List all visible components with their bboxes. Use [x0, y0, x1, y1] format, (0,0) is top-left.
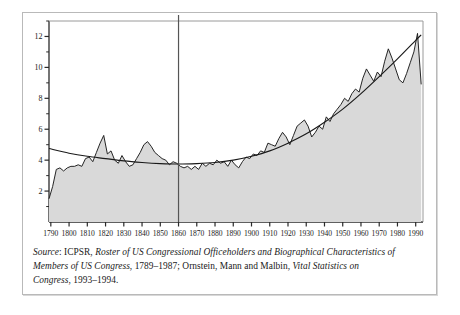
- x-tick-label: 1950: [335, 229, 350, 238]
- x-tick-label: 1850: [153, 229, 168, 238]
- figure-panel: 2468101217901800181018201830184018501860…: [22, 12, 437, 295]
- caption-text: : ICPSR,: [59, 247, 95, 257]
- y-tick-label: 4: [39, 156, 43, 165]
- x-tick-label: 1900: [244, 229, 259, 238]
- observed-area-fill: [49, 33, 421, 222]
- caption-line: Congress, 1993–1994.: [33, 273, 429, 287]
- caption-text: Congress: [33, 275, 68, 285]
- x-tick-label: 1910: [262, 229, 277, 238]
- x-tick-label: 1890: [226, 229, 241, 238]
- y-tick-label: 8: [39, 94, 43, 103]
- x-tick-label: 1790: [43, 229, 58, 238]
- y-tick-label: 6: [39, 125, 43, 134]
- figure-caption: Source: ICPSR, Roster of US Congressiona…: [33, 245, 429, 288]
- caption-text: Vital Statistics on: [293, 261, 359, 271]
- x-tick-label: 1810: [80, 229, 95, 238]
- x-tick-label: 1840: [134, 229, 149, 238]
- x-tick-label: 1920: [280, 229, 295, 238]
- y-tick-label: 10: [35, 63, 43, 72]
- x-tick-label: 1880: [207, 229, 222, 238]
- x-tick-label: 1960: [353, 229, 368, 238]
- y-tick-label: 2: [39, 187, 43, 196]
- caption-text: , 1789–1987; Ornstein, Mann and Malbin,: [130, 261, 293, 271]
- x-tick-label: 1990: [408, 229, 423, 238]
- chart-plot-area: 2468101217901800181018201830184018501860…: [23, 13, 438, 248]
- x-tick-label: 1940: [317, 229, 332, 238]
- x-tick-label: 1860: [171, 229, 186, 238]
- series-area-observed: [49, 33, 421, 222]
- caption-text: , 1993–1994.: [68, 275, 118, 285]
- caption-text: Members of US Congress: [33, 261, 130, 271]
- caption-text: Source: [33, 247, 59, 257]
- x-tick-label: 1820: [98, 229, 113, 238]
- x-tick-label: 1980: [390, 229, 405, 238]
- caption-text: Roster of US Congressional Officeholders…: [95, 247, 395, 257]
- x-tick-label: 1870: [189, 229, 204, 238]
- congress-tenure-chart: 2468101217901800181018201830184018501860…: [23, 13, 438, 248]
- y-tick-label: 12: [35, 32, 43, 41]
- x-tick-label: 1930: [299, 229, 314, 238]
- x-tick-label: 1830: [116, 229, 131, 238]
- x-tick-label: 1970: [372, 229, 387, 238]
- caption-line: Source: ICPSR, Roster of US Congressiona…: [33, 245, 429, 259]
- caption-line: Members of US Congress, 1789–1987; Ornst…: [33, 259, 429, 273]
- x-tick-label: 1800: [61, 229, 76, 238]
